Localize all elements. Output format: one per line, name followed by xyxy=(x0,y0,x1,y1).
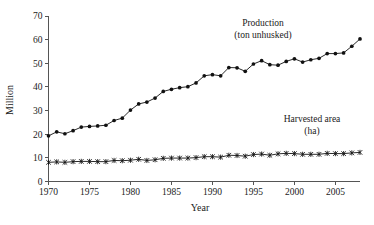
production-marker xyxy=(350,44,354,48)
production-marker xyxy=(63,132,67,136)
production-marker xyxy=(293,57,297,61)
production-marker xyxy=(178,86,182,90)
x-tick-label: 1980 xyxy=(121,187,140,197)
x-tick-label: 2005 xyxy=(326,187,345,197)
harvested-area-markers xyxy=(46,150,362,165)
x-tick-label: 1970 xyxy=(39,187,58,197)
x-axis-title: Year xyxy=(191,202,210,213)
production-marker xyxy=(129,108,133,112)
y-tick-label: 20 xyxy=(33,130,43,140)
y-axis-title: Million xyxy=(4,85,15,115)
production-marker xyxy=(145,100,149,104)
production-marker xyxy=(252,62,256,66)
production-marker xyxy=(120,116,124,120)
production-marker xyxy=(235,66,239,70)
y-tick-label: 40 xyxy=(33,82,43,92)
production-marker xyxy=(211,73,215,77)
production-marker xyxy=(170,87,174,91)
harvested-area-label-line2: (ha) xyxy=(304,126,319,137)
y-axis-ticks xyxy=(45,16,49,182)
axes-group xyxy=(45,16,360,185)
production-marker xyxy=(153,96,157,100)
production-marker xyxy=(88,125,92,129)
y-tick-label: 10 xyxy=(33,153,43,163)
x-tick-label: 1995 xyxy=(244,187,263,197)
production-marker xyxy=(161,90,165,94)
production-label-line2: (ton unhusked) xyxy=(234,30,291,41)
x-tick-label: 1990 xyxy=(203,187,222,197)
x-tick-label: 1985 xyxy=(162,187,181,197)
production-label-line1: Production xyxy=(242,18,284,28)
x-tick-label: 1975 xyxy=(80,187,99,197)
y-tick-label: 50 xyxy=(33,59,43,69)
production-marker xyxy=(186,85,190,89)
x-tick-label: 2000 xyxy=(285,187,304,197)
production-marker xyxy=(284,60,288,64)
harvested-area-label-line1: Harvested area xyxy=(284,114,341,124)
y-tick-label: 0 xyxy=(38,177,43,187)
series-harvested-area xyxy=(46,150,362,165)
production-marker xyxy=(194,81,198,85)
production-marker xyxy=(268,63,272,67)
y-tick-label: 30 xyxy=(33,106,43,116)
production-marker xyxy=(47,134,51,138)
production-marker xyxy=(55,130,59,134)
production-marker xyxy=(104,123,108,127)
production-marker xyxy=(317,56,321,60)
production-marker xyxy=(325,52,329,56)
y-axis-tick-labels: 010203040506070 xyxy=(33,11,43,187)
y-tick-label: 70 xyxy=(33,11,43,21)
production-marker xyxy=(260,59,264,63)
y-tick-label: 60 xyxy=(33,35,43,45)
production-marker xyxy=(219,74,223,78)
production-marker xyxy=(243,69,247,73)
production-marker xyxy=(309,58,313,62)
production-marker xyxy=(202,74,206,78)
production-marker xyxy=(276,63,280,67)
production-marker xyxy=(358,37,362,41)
x-axis-tick-labels: 19701975198019851990199520002005 xyxy=(39,187,345,197)
production-marker xyxy=(342,51,346,55)
production-marker xyxy=(112,119,116,123)
production-marker xyxy=(334,52,338,56)
production-marker xyxy=(96,124,100,128)
chart-canvas: 010203040506070 197019751980198519901995… xyxy=(0,0,374,225)
production-marker xyxy=(71,129,75,133)
x-axis-ticks xyxy=(49,182,336,186)
production-marker xyxy=(79,125,83,129)
production-label: Production (ton unhusked) xyxy=(234,18,291,41)
production-marker xyxy=(301,60,305,64)
production-marker xyxy=(137,102,141,106)
production-marker xyxy=(227,66,231,70)
harvested-area-label: Harvested area (ha) xyxy=(284,114,341,137)
chart-figure: 010203040506070 197019751980198519901995… xyxy=(0,0,374,225)
